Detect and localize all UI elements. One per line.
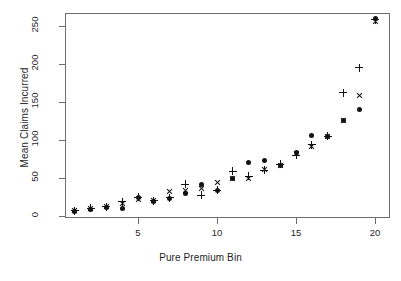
x-tick-label: 15 <box>281 227 311 238</box>
y-tick <box>59 178 65 179</box>
y-tick-label: 100 <box>29 119 40 159</box>
y-tick <box>59 216 65 217</box>
x-tick <box>296 218 297 224</box>
x-tick-label: 10 <box>202 227 232 238</box>
y-tick <box>59 102 65 103</box>
y-tick <box>59 26 65 27</box>
y-tick-label: 250 <box>29 5 40 45</box>
y-tick <box>59 140 65 141</box>
x-tick-label: 20 <box>360 227 390 238</box>
x-tick-label: 5 <box>123 227 153 238</box>
x-tick <box>217 218 218 224</box>
x-tick <box>138 218 139 224</box>
y-tick-label: 0 <box>29 195 40 235</box>
y-tick-label: 50 <box>29 157 40 197</box>
x-tick <box>375 218 376 224</box>
y-tick-label: 150 <box>29 81 40 121</box>
y-tick <box>59 64 65 65</box>
plot-frame <box>65 13 390 218</box>
x-axis-label: Pure Premium Bin <box>0 252 401 263</box>
y-tick-label: 200 <box>29 43 40 83</box>
y-axis-label: Mean Claims Incurred <box>19 48 30 188</box>
scatter-plot: 050100150200250 5101520 Mean Claims Incu… <box>0 0 401 281</box>
